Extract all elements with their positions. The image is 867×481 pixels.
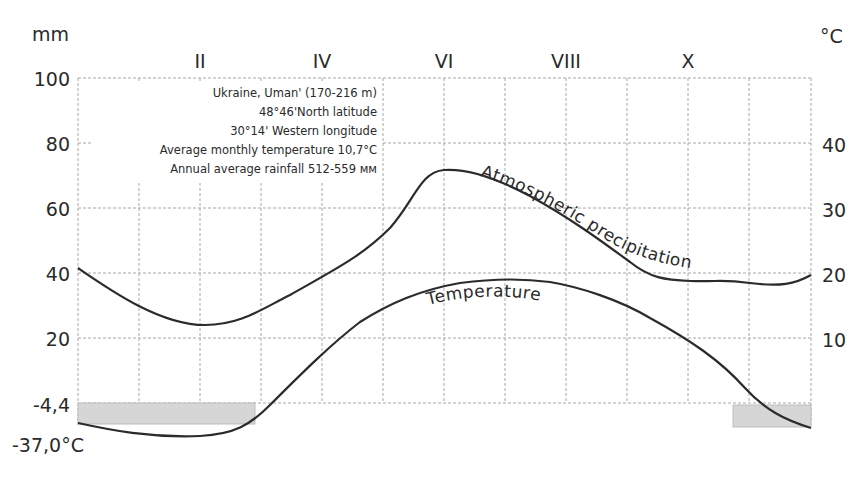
left-tick-100: 100	[34, 68, 70, 90]
left-axis: mm 100 80 60 40 20 -4,4 -37,0°C	[12, 23, 84, 456]
right-tick-10: 10	[822, 329, 846, 351]
month-label-viii: VIII	[551, 50, 581, 72]
min-temp-label: -37,0°C	[12, 434, 84, 456]
month-axis: II IV VI VIII X	[194, 50, 694, 72]
frost-bar-winter	[78, 403, 255, 424]
info-rainfall: Annual average rainfall 512-559 мм	[170, 162, 377, 176]
month-label-ii: II	[194, 50, 205, 72]
left-tick-60: 60	[46, 198, 70, 220]
climate-chart: mm 100 80 60 40 20 -4,4 -37,0°C °C 40 30…	[0, 0, 867, 481]
month-label-iv: IV	[313, 50, 332, 72]
info-avg-temp: Average monthly temperature 10,7°C	[160, 143, 377, 157]
right-axis-unit: °C	[820, 25, 843, 47]
left-tick-40: 40	[46, 263, 70, 285]
right-axis: °C 40 30 20 10	[820, 25, 846, 351]
left-tick-80: 80	[46, 133, 70, 155]
right-tick-40: 40	[822, 134, 846, 156]
left-axis-unit: mm	[32, 23, 69, 45]
left-tick-frost-temp: -4,4	[33, 394, 70, 416]
right-tick-20: 20	[822, 264, 846, 286]
month-label-vi: VI	[435, 50, 454, 72]
left-tick-20: 20	[46, 328, 70, 350]
right-tick-30: 30	[822, 199, 846, 221]
temperature-curve-label: Temperature	[423, 281, 543, 310]
precipitation-curve-label: Atmospheric precipitation	[479, 161, 694, 273]
info-latitude: 48°46'North latitude	[259, 105, 377, 119]
info-longitude: 30°14' Western longitude	[230, 124, 377, 138]
month-label-x: X	[681, 50, 694, 72]
info-location: Ukraine, Uman' (170-216 m)	[213, 86, 377, 100]
